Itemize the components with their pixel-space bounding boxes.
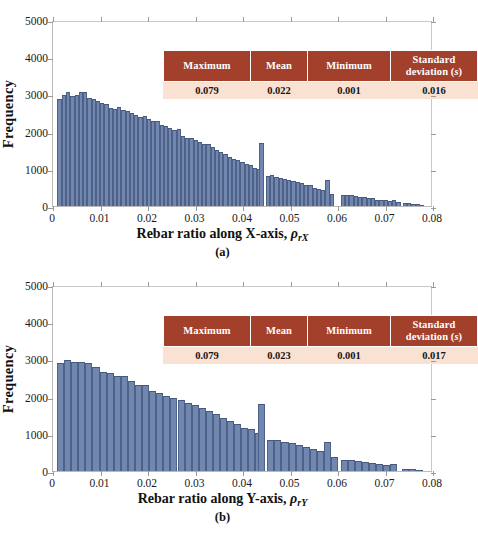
y-axis-tick: [48, 361, 53, 362]
x-axis-tick-top: [53, 282, 54, 287]
x-axis-tick-top: [101, 282, 102, 287]
x-tick-label: 0.07: [374, 477, 394, 489]
x-axis-tick-top: [148, 282, 149, 287]
histogram-bar: [281, 442, 288, 471]
x-axis-tick-top: [148, 17, 149, 22]
y-axis-tick-right: [431, 134, 436, 135]
panel-b: Frequency 010002000300040005000 Maximum …: [0, 265, 445, 530]
histogram-bar: [341, 460, 348, 471]
x-axis-title-a: Rebar ratio along X-axis, ρrX: [0, 226, 445, 243]
x-axis-title-text-b: Rebar ratio along Y-axis,: [138, 491, 290, 506]
stats-header-stddev-b: Standard deviation (s): [391, 316, 478, 347]
y-tick-label: 2000: [25, 392, 48, 404]
histogram-bar: [142, 385, 149, 471]
stats-header-stddev-a: Standard deviation (s): [391, 51, 478, 82]
stats-header-mean-b: Mean: [251, 316, 308, 347]
histogram-bar: [330, 194, 334, 207]
y-tick-label: 4000: [25, 317, 48, 329]
stats-header-minimum-a: Minimum: [308, 51, 391, 82]
y-tick-label: 5000: [25, 15, 48, 27]
y-axis-tick: [48, 171, 53, 172]
histogram-bar: [409, 469, 416, 471]
y-axis-tick: [48, 134, 53, 135]
y-tick-label: 1000: [25, 429, 48, 441]
y-axis-tick-right: [431, 22, 436, 23]
histogram-bar: [296, 445, 303, 472]
y-tick-label: 0: [42, 466, 48, 478]
y-axis-tick: [48, 96, 53, 97]
histogram-bar: [114, 376, 121, 471]
histogram-bar: [85, 363, 92, 471]
histogram-bar: [303, 447, 310, 471]
histogram-bar: [416, 470, 423, 471]
x-axis-title-rho-a: ρ: [291, 226, 298, 241]
histogram-bar: [355, 461, 362, 471]
histogram-bar: [289, 443, 296, 471]
x-axis-tick-top: [243, 282, 244, 287]
x-axis-tick-top: [386, 282, 387, 287]
y-tick-labels-b: 010002000300040005000: [4, 286, 48, 472]
histogram-bar: [274, 440, 281, 471]
y-axis-tick-right: [431, 361, 436, 362]
histogram-bar: [324, 442, 331, 471]
x-axis-title-sub-a: rX: [298, 232, 309, 243]
x-tick-label: 0.07: [374, 212, 394, 224]
x-tick-label: 0: [49, 477, 55, 489]
histogram-bar: [149, 391, 156, 471]
y-tick-label: 4000: [25, 52, 48, 64]
x-axis-tick-top: [53, 17, 54, 22]
histogram-bar: [331, 457, 338, 471]
x-tick-label: 0.03: [184, 477, 204, 489]
stats-header-maximum-a: Maximum: [164, 51, 251, 82]
x-tick-label: 0.03: [184, 212, 204, 224]
histogram-bar: [376, 464, 383, 471]
stats-header-minimum-b: Minimum: [308, 316, 391, 347]
y-axis-tick-right: [431, 436, 436, 437]
histogram-bar: [420, 205, 424, 206]
histogram-bar: [402, 469, 409, 471]
stats-table-header-row-a: Maximum Mean Minimum Standard deviation …: [164, 51, 478, 82]
y-axis-tick: [48, 436, 53, 437]
x-axis-title-b: Rebar ratio along Y-axis, ρrY: [0, 491, 445, 508]
histogram-bar: [248, 429, 255, 471]
histogram-bar: [57, 363, 64, 471]
x-tick-label: 0.02: [137, 212, 157, 224]
x-tick-label: 0.06: [327, 212, 347, 224]
stats-value-mean-a: 0.022: [251, 82, 308, 99]
x-tick-label: 0.05: [279, 477, 299, 489]
histogram-bar: [317, 451, 324, 471]
y-tick-label: 0: [42, 201, 48, 213]
x-axis-tick-top: [433, 17, 434, 22]
x-tick-label: 0.04: [232, 212, 252, 224]
histogram-bar: [348, 460, 355, 471]
histogram-bar: [396, 202, 400, 206]
stats-header-mean-a: Mean: [251, 51, 308, 82]
x-axis-tick: [433, 206, 434, 211]
y-axis-tick: [48, 22, 53, 23]
histogram-bar: [227, 421, 234, 471]
histogram-bar: [192, 405, 199, 471]
histogram-bar: [100, 372, 107, 471]
histogram-bar: [234, 424, 241, 471]
x-axis-title-text-a: Rebar ratio along X-axis,: [137, 226, 291, 241]
x-tick-label: 0.01: [89, 477, 109, 489]
x-axis-tick-top: [196, 282, 197, 287]
x-axis-tick-top: [291, 17, 292, 22]
panel-caption-b: (b): [0, 510, 445, 525]
histogram-bar: [64, 360, 71, 472]
x-tick-label: 0.08: [422, 212, 442, 224]
histogram-bar: [362, 462, 369, 471]
stats-value-maximum-b: 0.079: [164, 347, 251, 364]
x-axis-tick-top: [338, 17, 339, 22]
y-tick-labels-a: 010002000300040005000: [4, 21, 48, 207]
x-axis-tick-top: [338, 282, 339, 287]
y-axis-tick-right: [431, 324, 436, 325]
histogram-bar: [128, 381, 135, 471]
y-tick-label: 5000: [25, 280, 48, 292]
x-tick-label: 0: [49, 212, 55, 224]
y-axis-tick-right: [431, 399, 436, 400]
plot-area-a: Maximum Mean Minimum Standard deviation …: [52, 21, 432, 207]
histogram-bar: [163, 396, 170, 471]
stats-table-b: Maximum Mean Minimum Standard deviation …: [163, 315, 478, 364]
